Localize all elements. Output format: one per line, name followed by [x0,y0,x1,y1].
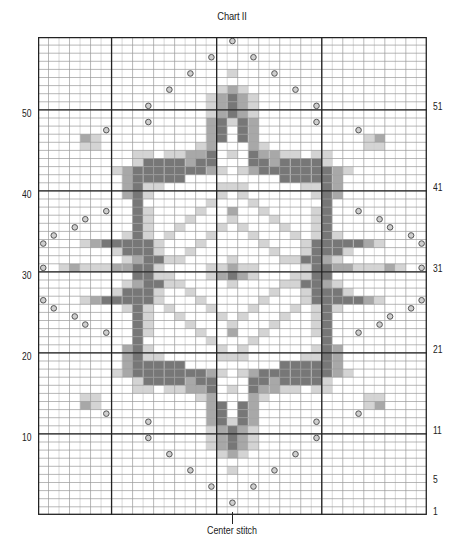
shaded-cell [227,426,238,434]
shaded-cell [196,385,207,393]
shaded-cell [206,410,217,418]
shaded-cell [290,167,301,175]
shaded-cell [175,369,186,377]
shaded-cell [185,159,196,167]
shaded-cell [101,264,112,272]
row-label-left-10: 10 [22,433,31,443]
circle-symbol-icon [356,330,362,336]
circle-symbol-icon [209,484,215,490]
shaded-cell [175,223,186,231]
shaded-cell [343,369,354,377]
shaded-cell [301,264,312,272]
shaded-cell [238,434,249,442]
shaded-cell [185,369,196,377]
shaded-cell [311,167,322,175]
shaded-cell [332,256,343,264]
shaded-cell [206,167,217,175]
shaded-cell [164,167,175,175]
shaded-cell [301,256,312,264]
shaded-cell [154,377,165,385]
shaded-cell [311,264,322,272]
shaded-cell [227,272,238,280]
shaded-cell [133,240,144,248]
shaded-cell [143,280,154,288]
shaded-cell [227,280,238,288]
shaded-cell [206,142,217,150]
shaded-cell [227,385,238,393]
shaded-cell [217,369,228,377]
shaded-cell [143,223,154,231]
shaded-cell [217,272,228,280]
shaded-cell [206,442,217,450]
shaded-cell [374,142,385,150]
shaded-cell [133,159,144,167]
shaded-cell [332,264,343,272]
shaded-cell [70,264,81,272]
circle-symbol-icon [82,322,88,328]
shaded-cell [196,377,207,385]
center-stitch-label: Center stitch [201,524,262,536]
shaded-cell [164,280,175,288]
shaded-cell [280,377,291,385]
circle-symbol-icon [272,468,278,474]
shaded-cell [311,272,322,280]
circle-symbol-icon [72,314,78,320]
shaded-cell [154,240,165,248]
shaded-cell [332,345,343,353]
shaded-cell [269,167,280,175]
shaded-cell [206,199,217,207]
shaded-cell [227,94,238,102]
shaded-cell [269,321,280,329]
shaded-cell [364,142,375,150]
shaded-cell [238,264,249,272]
shaded-cell [301,288,312,296]
shaded-cell [217,312,228,320]
shaded-cell [185,167,196,175]
shaded-cell [238,312,249,320]
shaded-cell [301,240,312,248]
shaded-cell [143,215,154,223]
shaded-cell [217,94,228,102]
shaded-cell [311,304,322,312]
circle-symbol-icon [419,241,425,247]
shaded-cell [185,248,196,256]
shaded-cell [133,272,144,280]
shaded-cell [227,442,238,450]
shaded-cell [332,248,343,256]
shaded-cell [290,280,301,288]
shaded-cell [217,167,228,175]
shaded-cell [175,167,186,175]
shaded-cell [91,134,102,142]
shaded-cell [322,215,333,223]
shaded-cell [332,288,343,296]
shaded-cell [91,402,102,410]
shaded-cell [217,345,228,353]
shaded-cell [143,272,154,280]
circle-symbol-icon [40,265,46,271]
shaded-cell [259,369,270,377]
shaded-cell [196,159,207,167]
row-label-right-51: 51 [433,102,442,112]
shaded-cell [133,231,144,239]
shaded-cell [217,110,228,118]
shaded-cell [143,361,154,369]
shaded-cell [248,337,259,345]
shaded-cell [311,183,322,191]
shaded-cell [301,175,312,183]
shaded-cell [154,288,165,296]
shaded-cell [154,248,165,256]
shaded-cell [301,361,312,369]
shaded-cell [206,159,217,167]
shaded-cell [311,369,322,377]
shaded-cell [311,288,322,296]
circle-symbol-icon [230,500,236,506]
shaded-cell [332,175,343,183]
shaded-cell [332,369,343,377]
shaded-cell [311,207,322,215]
shaded-cell [122,288,133,296]
shaded-cell [353,264,364,272]
shaded-cell [80,142,91,150]
shaded-cell [332,361,343,369]
circle-symbol-icon [293,87,299,93]
shaded-cell [133,385,144,393]
